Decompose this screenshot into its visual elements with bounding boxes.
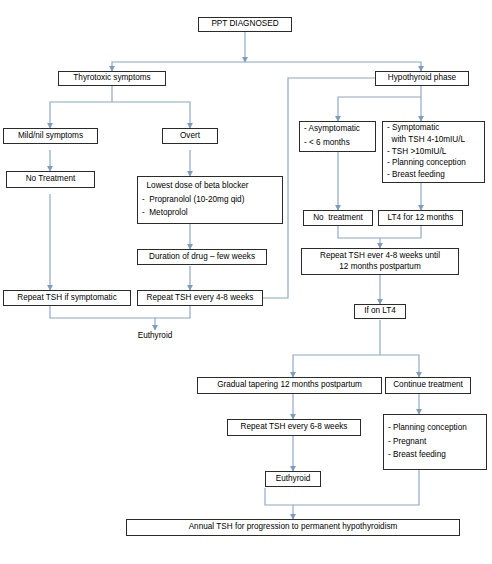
node-no-treatment-left[interactable]: No Treatment bbox=[6, 171, 95, 188]
node-ppt-diagnosed[interactable]: PPT DIAGNOSED bbox=[198, 17, 292, 32]
node-hypothyroid-phase[interactable]: Hypothyroid phase bbox=[375, 71, 469, 86]
node-text: Repeat TSH every 4-8 weeks bbox=[147, 293, 254, 304]
node-if-on-lt4[interactable]: If on LT4 bbox=[354, 304, 406, 319]
node-text: Hypothyroid phase bbox=[388, 73, 456, 84]
node-text: If on LT4 bbox=[364, 306, 396, 317]
node-gradual-tapering[interactable]: Gradual tapering 12 months postpartum bbox=[197, 377, 382, 394]
node-symptomatic[interactable]: - Symptomatic with TSH 4-10mIU/L - TSH >… bbox=[382, 121, 485, 183]
node-beta-blocker[interactable]: Lowest dose of beta blocker - Propranolo… bbox=[137, 176, 283, 224]
node-text: Thyrotoxic symptoms bbox=[73, 73, 150, 84]
node-text-line-2: - Pregnant bbox=[388, 435, 426, 449]
node-text-line-2: - Propranolol (10-20mg qid) bbox=[142, 193, 244, 207]
edge-lt4-to-repeat12 bbox=[380, 226, 421, 238]
node-text-line-3: - Metoprolol bbox=[142, 207, 188, 221]
edge-ifonlt4-to-tapering bbox=[293, 355, 380, 377]
node-text-line-2: 12 months postpartum bbox=[339, 262, 420, 273]
node-annual-tsh[interactable]: Annual TSH for progression to permanent … bbox=[126, 519, 460, 536]
node-text: Mild/nil symptoms bbox=[18, 131, 83, 142]
node-overt[interactable]: Overt bbox=[162, 128, 218, 144]
node-repeat-tsh-if-symptomatic[interactable]: Repeat TSH if symptomatic bbox=[3, 290, 131, 306]
node-text-line-1: Lowest dose of beta blocker bbox=[142, 179, 249, 193]
node-text: LT4 for 12 months bbox=[388, 213, 454, 224]
edge-euthyroid-to-annual bbox=[265, 488, 293, 519]
node-text: No Treatment bbox=[26, 174, 76, 185]
node-text: PPT DIAGNOSED bbox=[211, 19, 278, 30]
edge-repeatsympt-to-euthyroid bbox=[50, 306, 155, 330]
node-text: Gradual tapering 12 months postpartum bbox=[217, 380, 362, 391]
node-no-treatment-right[interactable]: No treatment bbox=[303, 210, 373, 226]
flowchart-diagram: PPT DIAGNOSED Thyrotoxic symptoms Mild/n… bbox=[0, 0, 492, 564]
node-text: Euthyroid bbox=[276, 474, 311, 485]
node-text-line-3: - Breast feeding bbox=[388, 449, 446, 463]
edge-bus-to-thyrotoxic bbox=[112, 62, 245, 71]
node-text: No treatment bbox=[313, 213, 363, 224]
node-text: Repeat TSH if symptomatic bbox=[17, 293, 117, 304]
edge-thyrotoxic-to-mild bbox=[50, 102, 112, 128]
node-text-line-5: - Breast feeding bbox=[387, 170, 445, 182]
edge-bus-to-hypothyroid bbox=[245, 62, 421, 71]
node-asymptomatic[interactable]: - Asymptomatic - < 6 months bbox=[299, 121, 376, 152]
node-thyrotoxic-symptoms[interactable]: Thyrotoxic symptoms bbox=[58, 71, 166, 86]
node-text-line-1: Repeat TSH ever 4-8 weeks until bbox=[320, 251, 440, 262]
node-lt4-for-12-months[interactable]: LT4 for 12 months bbox=[378, 210, 463, 226]
node-text: Duration of drug – few weeks bbox=[149, 252, 255, 263]
edge-repeat48-to-euthyroid bbox=[155, 306, 190, 318]
node-text: Repeat TSH every 6-8 weeks bbox=[241, 422, 348, 433]
edge-ifonlt4-to-continue bbox=[380, 355, 419, 377]
node-text-line-2: - < 6 months bbox=[304, 137, 350, 151]
node-text-line-2: with TSH 4-10mIU/L bbox=[387, 134, 465, 146]
node-repeat-tsh-every-6-8-weeks[interactable]: Repeat TSH every 6-8 weeks bbox=[227, 419, 361, 436]
edge-notreatment-to-repeat12 bbox=[338, 226, 380, 248]
node-repeat-tsh-every-4-8-weeks[interactable]: Repeat TSH every 4-8 weeks bbox=[137, 290, 263, 306]
node-text: Euthyroid bbox=[138, 331, 173, 342]
node-text-line-1: - Asymptomatic bbox=[304, 123, 360, 137]
node-mild-nil-symptoms[interactable]: Mild/nil symptoms bbox=[3, 128, 98, 144]
node-repeat-tsh-until-12-months[interactable]: Repeat TSH ever 4-8 weeks until 12 month… bbox=[301, 248, 459, 275]
node-text-line-1: - Symptomatic bbox=[387, 123, 439, 135]
edge-thyrotoxic-to-overt bbox=[112, 102, 190, 128]
node-duration-of-drug[interactable]: Duration of drug – few weeks bbox=[137, 249, 267, 265]
node-text-line-1: - Planning conception bbox=[388, 421, 467, 435]
node-continue-reasons[interactable]: - Planning conception - Pregnant - Breas… bbox=[383, 414, 487, 470]
node-text: Overt bbox=[180, 131, 200, 142]
node-euthyroid-left: Euthyroid bbox=[131, 330, 179, 343]
node-euthyroid-bottom[interactable]: Euthyroid bbox=[265, 471, 321, 487]
edge-hypothyroid-to-asymptomatic bbox=[338, 97, 421, 121]
node-text: Annual TSH for progression to permanent … bbox=[189, 522, 398, 533]
node-text-line-4: - Planning conception bbox=[387, 158, 466, 170]
node-continue-treatment[interactable]: Continue treatment bbox=[385, 377, 471, 394]
node-text-line-3: - TSH >10mIU/L bbox=[387, 146, 446, 158]
node-text: Continue treatment bbox=[393, 380, 463, 391]
